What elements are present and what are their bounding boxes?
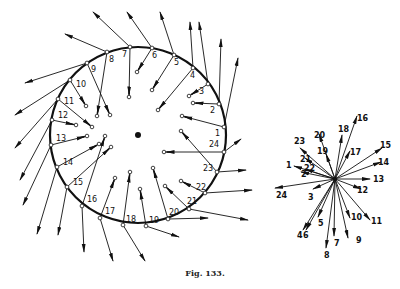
outer-arrow [82,206,84,252]
rim-point-10: 10 [15,78,88,115]
rim-node [56,97,60,101]
inner-arrowhead [140,191,141,198]
rim-point-label: 18 [126,215,136,224]
star-center-dot [333,177,337,181]
inner-arrowhead [97,106,98,113]
star-vector-label: 14 [378,158,390,167]
star-vector-label: 6 [303,231,309,240]
rim-node [222,125,226,129]
inner-node [90,125,94,129]
rim-point-label: 3 [199,87,204,96]
rim-point-6: 6 [127,12,157,74]
outer-arrow [23,145,51,205]
outer-arrow [190,22,193,68]
inner-node [135,70,139,74]
inner-arrowhead [84,121,90,126]
inner-node [180,114,184,118]
star-vector-24: 24 [275,179,335,200]
star-vector-label: 1 [286,161,292,170]
inner-arrowhead [129,174,130,181]
rim-node [80,204,84,208]
inner-node [179,179,183,183]
star-vector-label: 24 [276,191,288,200]
outer-arrow [224,58,238,127]
star-vector-label: 7 [334,239,340,248]
rim-node [105,50,109,54]
inner-node [150,88,154,92]
outer-arrow [127,12,152,48]
outer-arrow [15,80,70,115]
outer-arrow [160,12,174,55]
rim-point-label: 22 [196,183,206,192]
star-vector-label: 5 [318,219,324,228]
rim-point-label: 5 [174,58,179,67]
outer-arrow [219,39,221,104]
star-vector-label: 16 [357,114,369,123]
star-vector-label: 19 [317,147,329,156]
star-vector-label: 8 [324,251,330,260]
inner-node [85,134,89,138]
rim-point-label: 9 [91,65,96,74]
inner-node [109,145,113,149]
star-vector-label: 20 [314,131,326,140]
outer-arrow [20,120,52,180]
rim-node [206,82,210,86]
rim-node [65,185,69,189]
rim-node [222,150,226,154]
rim-point-24: 24 [162,139,241,154]
rim-node [215,170,219,174]
inner-arrowhead [111,180,114,187]
star-vector-label: 23 [294,137,305,146]
rim-node [166,217,170,221]
rim-node [172,53,176,57]
inner-node [163,184,167,188]
outer-arrow [146,226,179,237]
rim-node [121,223,125,227]
inner-arrowhead [183,182,190,185]
outer-arrow [168,218,208,219]
rim-node [55,165,59,169]
outer-arrow [123,225,145,261]
inner-node [113,176,117,180]
inner-arrowhead [102,138,104,145]
center-dot [135,132,141,138]
star-vector-label: 9 [356,236,362,245]
star-vector-label: 3 [308,193,314,202]
inner-node [179,129,183,133]
outer-arrow [37,167,57,234]
inner-arrowhead [90,145,97,149]
inner-arrowhead [81,97,85,103]
star-vector-label: 18 [338,125,350,134]
inner-arrowhead [184,117,191,119]
outer-arrow [100,218,113,261]
rim-point-label: 6 [152,51,157,60]
rim-point-label: 23 [203,164,213,173]
inner-node [162,150,166,154]
inner-node [127,95,131,99]
inner-node [95,114,99,118]
rim-point-22: 22 [179,179,252,195]
rim-point-label: 15 [73,178,83,187]
inner-node [97,142,101,146]
rim-point-label: 20 [169,208,179,217]
rim-point-label: 11 [64,97,74,106]
rim-node [144,224,148,228]
inner-node [187,94,191,98]
inner-arrowhead [191,91,197,95]
star-vector-label: 11 [371,217,383,226]
rim-node [150,46,154,50]
inner-arrowhead [160,102,165,108]
star-vector-label: 22 [304,164,315,173]
rim-point-label: 16 [87,195,97,204]
rim-node [128,45,132,49]
rim-node [85,61,89,65]
rim-point-label: 10 [76,80,86,89]
outer-arrow [205,190,252,193]
star-vector-label: 15 [380,141,392,150]
rim-node [187,207,191,211]
inner-arrowhead [77,137,84,139]
rim-point-18: 18 [121,170,145,261]
rim-point-label: 24 [209,140,219,149]
inner-arrowhead [106,106,109,113]
inner-arrowhead [66,123,73,125]
